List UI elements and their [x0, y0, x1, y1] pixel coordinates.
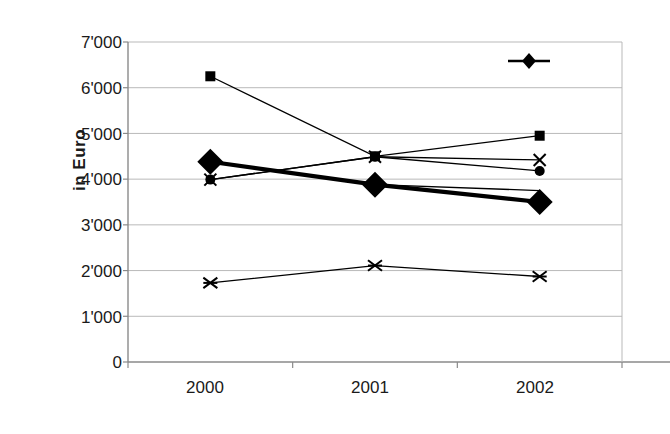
y-axis-ticks: [123, 42, 128, 362]
x-axis-ticks: [128, 362, 622, 368]
chart-figure: in Euro 7'000 6'000 5'000 4'000 3'000 2'…: [0, 0, 670, 434]
data-point-circle: [535, 166, 545, 176]
data-point-circle: [205, 175, 215, 185]
data-point-circle: [370, 152, 380, 162]
chart-canvas: [0, 0, 670, 434]
data-point-square: [535, 131, 545, 141]
data-point-square: [205, 71, 215, 81]
